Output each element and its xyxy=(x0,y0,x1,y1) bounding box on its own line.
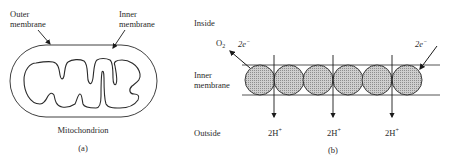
inside-label: Inside xyxy=(194,18,215,28)
protein-circle xyxy=(392,65,422,95)
membrane-proteins xyxy=(245,65,422,95)
mitochondrion-caption: Mitochondrion xyxy=(58,125,110,135)
inner-membrane-label-b-line1: Inner xyxy=(194,70,212,80)
outer-membrane-pointer xyxy=(38,30,50,44)
protein-circle xyxy=(274,65,304,95)
electron-arrow xyxy=(420,46,437,69)
inner-membrane-label-line1: Inner xyxy=(119,9,137,19)
inner-membrane-label-line2: membrane xyxy=(119,19,155,29)
outer-membrane-label-line2: membrane xyxy=(10,19,46,29)
oxygen-label: O2 xyxy=(216,38,225,49)
protein-circle xyxy=(362,65,392,95)
outside-label: Outside xyxy=(194,128,221,138)
proton-label-3: 2H+ xyxy=(385,127,399,138)
protein-circle xyxy=(245,65,275,95)
panel-b: Inside Inner membrane Outside O2 2e− 2e− xyxy=(194,18,440,155)
electrons-left-label: 2e− xyxy=(238,38,250,49)
proton-label-2: 2H+ xyxy=(327,127,341,138)
panel-a: Outer membrane Inner membrane Mitochondr… xyxy=(10,9,157,153)
outer-membrane-label-line1: Outer xyxy=(10,9,30,19)
proton-label-1: 2H+ xyxy=(268,127,282,138)
outer-membrane-shape xyxy=(10,45,157,117)
protein-circle xyxy=(303,65,333,95)
inner-membrane-shape xyxy=(24,59,140,109)
mitochondrion-figure: Outer membrane Inner membrane Mitochondr… xyxy=(0,0,449,164)
panel-a-label: (a) xyxy=(78,143,88,153)
inner-membrane-label-b-line2: membrane xyxy=(194,80,230,90)
oxygen-arrow xyxy=(230,51,250,68)
electrons-right-label: 2e− xyxy=(415,38,427,49)
protein-circle xyxy=(333,65,363,95)
panel-b-label: (b) xyxy=(328,145,338,155)
